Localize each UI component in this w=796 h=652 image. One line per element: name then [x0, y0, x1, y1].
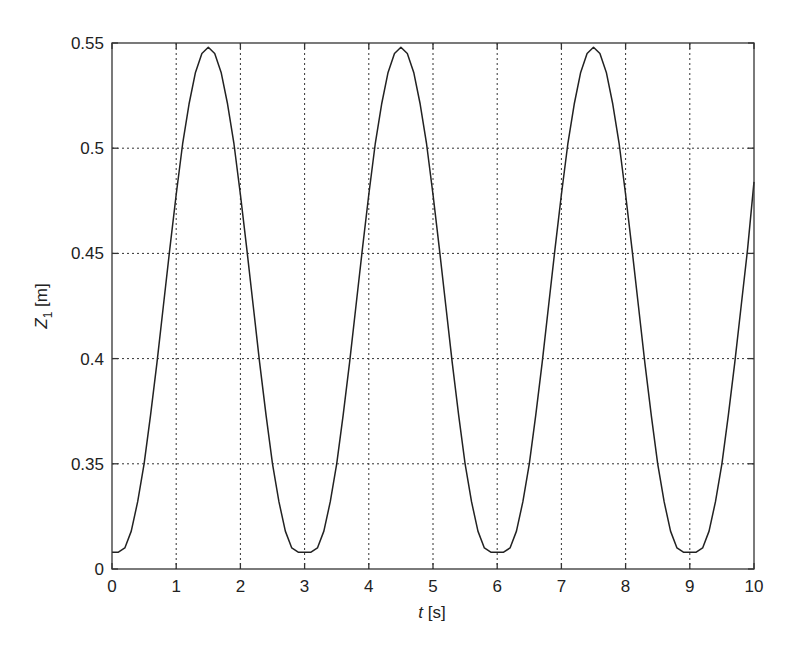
y-tick-label: 0.4 — [80, 350, 104, 369]
x-tick-label: 2 — [236, 577, 245, 596]
x-tick-label: 6 — [492, 577, 501, 596]
y-axis-unit: [m] — [32, 283, 51, 311]
x-tick-label: 1 — [171, 577, 180, 596]
x-tick-label: 4 — [364, 577, 373, 596]
x-tick-labels: 012345678910 — [107, 577, 763, 596]
x-tick-label: 9 — [685, 577, 694, 596]
x-tick-label: 5 — [428, 577, 437, 596]
y-tick-label: 0.35 — [71, 455, 104, 474]
y-tick-labels: 00.350.40.450.50.55 — [71, 34, 104, 579]
plot-frame — [112, 43, 754, 569]
x-tick-label: 7 — [557, 577, 566, 596]
x-tick-label: 10 — [745, 577, 764, 596]
x-tick-label: 0 — [107, 577, 116, 596]
x-tick-label: 3 — [300, 577, 309, 596]
y-axis-label: Z1 [m] — [32, 283, 55, 329]
x-tick-label: 8 — [621, 577, 630, 596]
chart: 012345678910 00.350.40.450.50.55 t [s] Z… — [0, 0, 796, 652]
y-tick-label: 0.5 — [80, 139, 104, 158]
x-axis-label: t [s] — [418, 603, 445, 622]
y-axis-var: Z — [32, 318, 51, 330]
grid-layer — [112, 43, 754, 569]
tick-layer — [112, 43, 754, 569]
y-tick-label: 0 — [95, 560, 104, 579]
x-axis-unit: [s] — [423, 603, 446, 622]
y-tick-label: 0.55 — [71, 34, 104, 53]
y-tick-label: 0.45 — [71, 244, 104, 263]
